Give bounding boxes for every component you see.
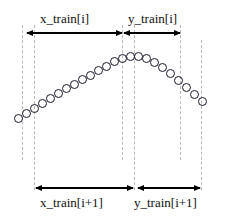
data-point-layer <box>0 0 226 221</box>
data-point-marker <box>30 104 39 113</box>
label-y-train-i: y_train[i] <box>128 12 177 26</box>
data-point-marker <box>14 114 23 123</box>
sliding-window-diagram: x_train[i] y_train[i] x_train[i+1] y_tra… <box>0 0 226 221</box>
data-point-marker <box>174 76 183 85</box>
data-point-marker <box>166 69 175 78</box>
data-point-marker <box>150 58 159 67</box>
data-point-marker <box>46 94 55 103</box>
data-point-marker <box>86 71 95 80</box>
label-y-train-i-plus-1: y_train[i+1] <box>134 196 197 210</box>
data-point-marker <box>54 89 63 98</box>
data-point-marker <box>22 109 31 118</box>
data-point-marker <box>158 63 167 72</box>
data-point-marker <box>38 99 47 108</box>
data-point-marker <box>198 97 207 106</box>
data-point-marker <box>70 80 79 89</box>
label-x-train-i-plus-1: x_train[i+1] <box>40 196 103 210</box>
data-point-marker <box>190 90 199 99</box>
data-point-marker <box>102 62 111 71</box>
label-x-train-i: x_train[i] <box>40 12 89 26</box>
data-point-marker <box>182 83 191 92</box>
